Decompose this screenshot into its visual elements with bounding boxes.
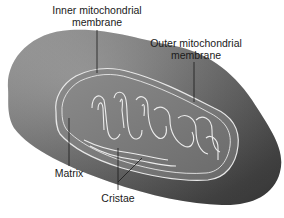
cristae-label: Cristae (98, 192, 138, 204)
inner-membrane-label-line1: Inner mitochondrial (44, 4, 150, 16)
matrix-label: Matrix (52, 167, 86, 179)
outer-membrane-label-line2: membrane (146, 49, 246, 61)
mitochondrion-diagram (0, 0, 284, 218)
inner-membrane-label: Inner mitochondrial membrane (44, 4, 150, 28)
outer-membrane-label-line1: Outer mitochondrial (146, 37, 246, 49)
outer-membrane-label: Outer mitochondrial membrane (146, 37, 246, 61)
inner-membrane-label-line2: membrane (44, 16, 150, 28)
